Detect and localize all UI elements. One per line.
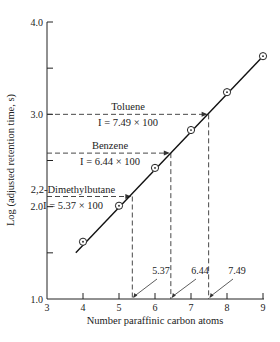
x-tick-label: 8 [225,302,230,313]
x-tick-label: 6 [153,302,158,313]
retention-index-label: I = 6.44 × 100 [80,156,140,167]
arrowhead-icon [210,293,214,298]
data-point [79,238,86,245]
arrowhead-icon [172,293,176,298]
marker-center [118,205,120,207]
carbon-equivalent-label: 6.44 [191,265,209,276]
x-tick-label: 9 [261,302,266,313]
x-tick-label: 5 [117,302,122,313]
compound-label: Toluene [111,101,145,112]
carbon-equivalent-label: 5.37 [152,265,170,276]
marker-center [82,241,84,243]
pointer-line [210,279,233,297]
annotation-2-2-dimethylbutane: 2,2-DimethylbutaneI = 5.37 × 1005.37 [31,184,170,299]
data-point [223,89,230,96]
x-tick-label: 4 [81,302,86,313]
x-tick-label: 7 [189,302,194,313]
arrowhead-icon [133,293,137,298]
y-tick-label: 3.0 [31,109,44,120]
data-point [151,164,158,171]
data-point [115,202,122,209]
y-tick-label: 2.0 [31,201,44,212]
data-point [187,126,194,133]
pointer-line [172,279,196,297]
data-point [259,53,266,60]
annotation-guides: TolueneI = 7.49 × 1007.49BenzeneI = 6.44… [31,101,246,299]
retention-index-label: I = 7.49 × 100 [98,117,158,128]
annotation-benzene: BenzeneI = 6.44 × 1006.44 [47,140,209,299]
retention-index-chart: 34567891.02.03.04.0 TolueneI = 7.49 × 10… [0,0,280,342]
marker-center [190,129,192,131]
compound-label: 2,2-Dimethylbutane [31,184,116,195]
marker-center [226,91,228,93]
y-axis-label: Log (adjusted retention time, s) [5,93,17,226]
marker-center [262,55,264,57]
fit-line [76,56,263,253]
x-tick-label: 3 [45,302,50,313]
y-tick-label: 1.0 [31,294,44,305]
marker-center [154,167,156,169]
pointer-line [133,279,157,297]
compound-label: Benzene [92,140,128,151]
x-axis-label: Number paraffinic carbon atoms [87,315,224,326]
carbon-equivalent-label: 7.49 [228,265,246,276]
retention-index-label: I = 5.37 × 100 [43,200,103,211]
y-tick-label: 4.0 [31,17,44,28]
